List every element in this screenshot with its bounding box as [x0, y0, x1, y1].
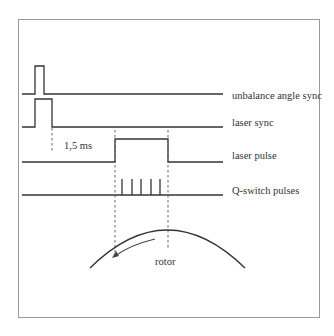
- timing-diagram: [0, 0, 334, 336]
- label-rotor: rotor: [155, 256, 175, 267]
- label-delay: 1,5 ms: [64, 140, 92, 151]
- label-q-switch-pulses: Q-switch pulses: [232, 185, 299, 196]
- diagram-frame: [19, 20, 320, 318]
- label-laser-pulse: laser pulse: [232, 150, 277, 161]
- label-unbalance-angle-sync: unbalance angle sync: [232, 90, 322, 101]
- label-laser-sync: laser sync: [232, 117, 274, 128]
